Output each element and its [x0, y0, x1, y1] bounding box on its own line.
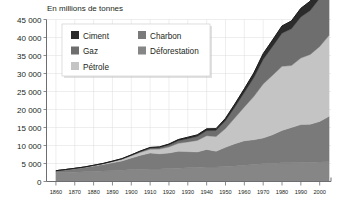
legend-label-ciment: Ciment — [83, 32, 110, 41]
y-tick-label: 5 000 — [21, 160, 42, 169]
x-tick-label: 1880 — [87, 189, 99, 195]
x-tick-label: 2000 — [313, 189, 325, 195]
legend-swatch-ciment — [71, 31, 79, 39]
x-tick-label: 1890 — [106, 189, 118, 195]
y-tick-label: 15 000 — [17, 124, 42, 133]
legend-swatch-ptrole — [71, 62, 79, 70]
y-tick-label: 10 000 — [17, 142, 42, 151]
y-tick-label: 45 000 — [17, 16, 42, 25]
y-tick-label: 40 000 — [17, 34, 42, 43]
legend-swatch-charbon — [138, 31, 146, 39]
x-tick-label: 1940 — [200, 189, 212, 195]
y-tick-label: 20 000 — [17, 106, 42, 115]
x-axis-tick-labels: 1860187018801890190019101920193019401950… — [50, 189, 326, 195]
x-tick-label: 1960 — [238, 189, 250, 195]
x-tick-label: 1920 — [163, 189, 175, 195]
legend-swatch-dforestation — [138, 47, 146, 55]
y-tick-label: 30 000 — [17, 70, 42, 79]
x-tick-label: 1870 — [69, 189, 81, 195]
x-tick-label: 1990 — [295, 189, 307, 195]
legend-label-ptrole: Pétrole — [83, 63, 109, 72]
x-tick-label: 1900 — [125, 189, 137, 195]
y-tick-label: 0 — [37, 178, 42, 187]
chart-container: 05 00010 00015 00020 00025 00030 00035 0… — [0, 0, 339, 203]
emissions-stacked-area-chart: 05 00010 00015 00020 00025 00030 00035 0… — [0, 0, 339, 203]
y-tick-label: 25 000 — [17, 88, 42, 97]
legend-swatch-gaz — [71, 47, 79, 55]
x-tick-label: 1980 — [276, 189, 288, 195]
x-tick-label: 1950 — [219, 189, 231, 195]
legend-label-gaz: Gaz — [83, 47, 98, 56]
legend-label-dforestation: Déforestation — [150, 47, 199, 56]
x-tick-label: 1930 — [182, 189, 194, 195]
chart-title: En millions de tonnes — [47, 4, 123, 13]
x-tick-label: 1860 — [50, 189, 62, 195]
y-tick-label: 35 000 — [17, 52, 42, 61]
x-tick-label: 1910 — [144, 189, 156, 195]
legend-label-charbon: Charbon — [150, 32, 182, 41]
chart-legend: CimentCharbonGazDéforestationPétrole — [62, 24, 212, 78]
x-tick-label: 1970 — [257, 189, 269, 195]
